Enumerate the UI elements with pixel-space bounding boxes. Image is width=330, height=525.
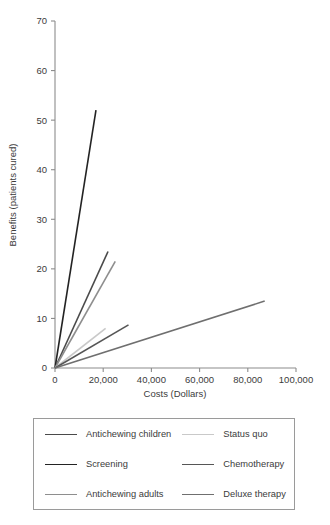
legend-item: Antichewing children — [34, 429, 171, 440]
y-axis-ticks: 010203040506070 — [36, 15, 55, 373]
axis-lines — [55, 21, 296, 368]
y-tick-label: 0 — [42, 362, 47, 373]
y-tick-label: 50 — [36, 115, 47, 126]
chart-figure: 010203040506070 020,00040,00060,00080,00… — [0, 0, 330, 525]
legend-line-swatch-icon — [182, 494, 214, 495]
y-tick-label: 10 — [36, 313, 47, 324]
legend-item: Chemotherapy — [171, 459, 294, 470]
legend-item: Antichewing adults — [34, 489, 171, 500]
legend-item-label: Antichewing children — [86, 429, 171, 440]
y-tick-label: 30 — [36, 214, 47, 225]
legend-grid: Antichewing children Status quo Screenin… — [34, 419, 294, 509]
series-line — [55, 328, 106, 368]
legend-line-swatch-icon — [182, 464, 214, 465]
y-axis-title: Benefits (patients cured) — [7, 144, 18, 247]
series-line — [55, 325, 129, 368]
series-line — [55, 252, 108, 368]
y-tick-label: 40 — [36, 164, 47, 175]
y-tick-label: 70 — [36, 15, 47, 26]
x-tick-label: 80,000 — [233, 374, 262, 385]
x-axis-title: Costs (Dollars) — [144, 388, 207, 399]
plot-area: 010203040506070 020,00040,00060,00080,00… — [0, 0, 330, 400]
x-axis-ticks: 020,00040,00060,00080,000100,000 — [52, 368, 313, 385]
legend-item: Deluxe therapy — [171, 489, 294, 500]
series-lines — [55, 110, 265, 368]
legend-item-label: Deluxe therapy — [223, 489, 286, 500]
chart-legend: Antichewing children Status quo Screenin… — [33, 418, 295, 510]
legend-line-swatch-icon — [45, 494, 77, 495]
legend-item-label: Chemotherapy — [223, 459, 284, 470]
legend-line-swatch-icon — [45, 464, 77, 465]
y-tick-label: 60 — [36, 65, 47, 76]
cost-effectiveness-plot: 010203040506070 020,00040,00060,00080,00… — [0, 0, 330, 400]
legend-item: Status quo — [171, 429, 294, 440]
x-tick-label: 60,000 — [185, 374, 214, 385]
x-tick-label: 40,000 — [137, 374, 166, 385]
x-tick-label: 20,000 — [89, 374, 118, 385]
x-tick-label: 100,000 — [279, 374, 313, 385]
x-tick-label: 0 — [52, 374, 57, 385]
legend-item-label: Status quo — [223, 429, 267, 440]
series-line — [55, 110, 96, 368]
legend-line-swatch-icon — [45, 434, 77, 435]
legend-item: Screening — [34, 459, 171, 470]
legend-item-label: Screening — [86, 459, 128, 470]
legend-line-swatch-icon — [182, 434, 214, 435]
legend-item-label: Antichewing adults — [86, 489, 164, 500]
y-tick-label: 20 — [36, 263, 47, 274]
